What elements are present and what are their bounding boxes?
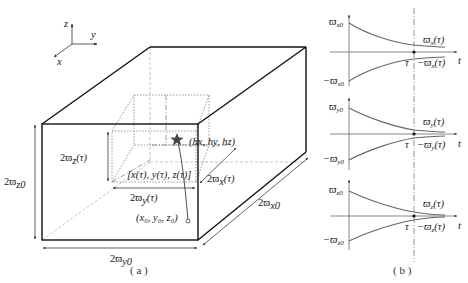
axis-z-label: z <box>63 18 68 29</box>
plot-z-bottom-label: −ϖz0 <box>323 234 344 247</box>
plot-x: ϖx0 −ϖx0 ϖx(τ) −ϖx(τ) τ t <box>323 15 462 88</box>
plot-y-top-label: ϖy0 <box>329 101 344 114</box>
center-point-label: [x(τ), y(τ), z(τ)] <box>127 169 191 181</box>
plot-x-bottom-label: −ϖx0 <box>323 75 345 88</box>
plot-x-tau-point <box>412 50 415 53</box>
panel-b-caption: ( b ) <box>393 264 412 277</box>
plot-y-t-label: t <box>458 138 462 149</box>
inner-height-label: 2ϖz(τ) <box>60 152 88 166</box>
outer-depth-label: 2ϖx0 <box>258 197 281 211</box>
axis-x-label: x <box>56 56 62 67</box>
inner-depth-label: 2ϖx(τ) <box>207 173 235 187</box>
plot-y-tau-label: τ <box>405 139 410 150</box>
panel-a-caption: ( a ) <box>130 264 148 277</box>
plot-x-lower-label: −ϖx(τ) <box>417 57 446 70</box>
plot-y-upper-label: ϖy(τ) <box>423 116 445 129</box>
plot-z-upper-label: ϖz(τ) <box>423 198 444 211</box>
plot-y-bottom-label: −ϖy0 <box>323 153 345 166</box>
plot-z-tau-point <box>412 214 415 217</box>
plot-x-tau-label: τ <box>405 57 410 68</box>
axis-y-label: y <box>90 29 96 40</box>
target-star-icon <box>170 133 183 145</box>
plot-y: ϖy0 −ϖy0 ϖy(τ) −ϖy(τ) τ t <box>323 98 462 170</box>
outer-depth-dimension <box>203 158 308 245</box>
plot-z: ϖz0 −ϖz0 ϖz(τ) −ϖz(τ) τ t <box>323 180 462 250</box>
plot-z-tau-label: τ <box>405 221 410 232</box>
start-point-label: (x₀, y₀, z₀) <box>136 212 178 224</box>
target-point-label: (hx, hy, hz) <box>189 136 236 148</box>
plot-z-t-label: t <box>458 220 462 231</box>
start-point-marker <box>186 219 190 223</box>
plot-z-lower-label: −ϖz(τ) <box>417 221 445 234</box>
inner-width-label: 2ϖy(τ) <box>130 192 158 206</box>
panel-a: z y x <box>4 18 308 277</box>
figure-canvas: z y x <box>0 0 468 283</box>
plot-x-upper-label: ϖx(τ) <box>423 34 445 47</box>
plot-y-lower-label: −ϖy(τ) <box>417 139 446 152</box>
panel-b: ϖx0 −ϖx0 ϖx(τ) −ϖx(τ) τ t ϖy0 −ϖy0 ϖy(τ)… <box>323 8 462 277</box>
trajectory-path <box>178 142 188 220</box>
plot-y-tau-point <box>412 132 415 135</box>
plot-z-top-label: ϖz0 <box>329 184 343 197</box>
plot-x-top-label: ϖx0 <box>329 16 344 29</box>
outer-height-label: 2ϖz0 <box>4 176 26 190</box>
plot-x-t-label: t <box>458 55 462 66</box>
